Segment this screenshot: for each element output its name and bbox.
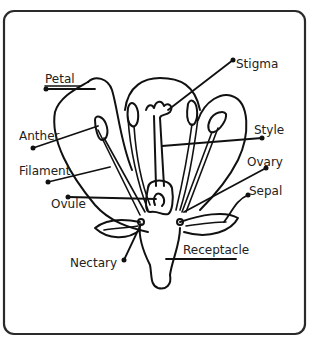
label-sepal: Sepal xyxy=(249,184,282,198)
label-receptacle: Receptacle xyxy=(183,243,249,257)
stigma-leader-dot xyxy=(231,58,236,63)
flower-diagram: Petal Stigma Anther Style Filament Ovary… xyxy=(0,0,312,340)
anther-leader-dot xyxy=(31,146,36,151)
nectary-leader-dot xyxy=(122,258,127,263)
label-anther: Anther xyxy=(19,129,60,143)
label-style: Style xyxy=(254,123,284,137)
filament-leader-dot xyxy=(46,180,51,185)
label-nectary: Nectary xyxy=(70,256,117,270)
petal-leader-dot xyxy=(44,87,49,92)
label-ovary: Ovary xyxy=(247,155,283,169)
label-filament: Filament xyxy=(19,164,71,178)
label-petal: Petal xyxy=(45,72,75,86)
label-ovule: Ovule xyxy=(51,197,86,211)
label-stigma: Stigma xyxy=(236,57,278,71)
